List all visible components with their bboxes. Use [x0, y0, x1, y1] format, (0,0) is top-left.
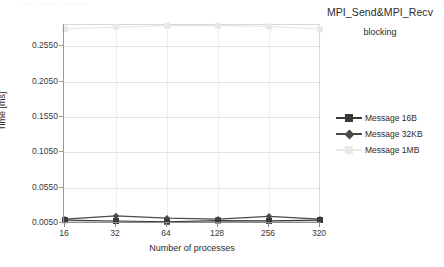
- x-axis-tick: [115, 223, 116, 227]
- legend-item[interactable]: Message 1MB: [336, 142, 440, 158]
- y-axis-ticklabel: 0.1050: [14, 146, 58, 156]
- y-axis-tick: [59, 45, 63, 46]
- legend-label: Message 16B: [362, 113, 417, 123]
- x-axis-ticklabel: 64: [161, 228, 170, 238]
- chart-screenshot: —— ——— ———— MPI_Send&MPI_Recv blocking 0…: [0, 0, 444, 267]
- y-axis-ticklabels: 0.00500.05500.10500.15500.20500.2550: [10, 0, 58, 267]
- x-axis-ticklabel: 320: [312, 228, 326, 238]
- series-line: [65, 216, 320, 219]
- x-axis-ticklabel: 16: [59, 228, 68, 238]
- plot-area: [63, 24, 320, 222]
- chart-title-block: MPI_Send&MPI_Recv blocking: [318, 6, 442, 37]
- legend-item[interactable]: Message 16B: [336, 110, 440, 126]
- data-point-marker: [215, 23, 221, 29]
- legend-marker-icon: [345, 146, 353, 154]
- x-axis-tick: [319, 223, 320, 227]
- y-axis-tick: [59, 116, 63, 117]
- data-point-marker: [113, 24, 119, 30]
- y-axis-tick: [59, 222, 63, 223]
- x-axis-line: [63, 222, 321, 223]
- legend-marker-icon: [345, 114, 353, 122]
- data-point-marker: [164, 23, 170, 29]
- series-line: [65, 26, 320, 30]
- y-axis-ticklabel: 0.1550: [14, 111, 58, 121]
- legend-swatch: [336, 112, 362, 124]
- legend-label: Message 1MB: [362, 145, 419, 155]
- series-layer: [64, 25, 321, 223]
- legend-item[interactable]: Message 32KB: [336, 126, 440, 142]
- legend-marker-icon: [344, 129, 354, 139]
- x-axis-tick: [217, 223, 218, 227]
- legend-swatch: [336, 128, 362, 140]
- legend-swatch: [336, 144, 362, 156]
- y-axis-tick: [59, 151, 63, 152]
- x-axis-tick: [64, 223, 65, 227]
- y-axis-title: Time [ms]: [0, 91, 7, 130]
- data-point-marker: [317, 26, 323, 32]
- data-point-marker: [266, 23, 272, 29]
- x-axis-title: Number of processes: [63, 243, 321, 253]
- y-axis-line: [63, 24, 64, 223]
- y-axis-ticklabel: 0.2550: [14, 40, 58, 50]
- x-axis-ticklabel: 256: [261, 228, 275, 238]
- y-axis-ticklabel: 0.0550: [14, 182, 58, 192]
- chart-subtitle: blocking: [318, 27, 442, 37]
- x-axis-ticklabel: 32: [110, 228, 119, 238]
- legend-label: Message 32KB: [362, 129, 423, 139]
- x-axis-tick: [166, 223, 167, 227]
- y-axis-ticklabel: 0.2050: [14, 76, 58, 86]
- y-axis-ticklabel: 0.0050: [14, 217, 58, 227]
- x-axis-ticklabel: 128: [210, 228, 224, 238]
- chart-title: MPI_Send&MPI_Recv: [318, 6, 442, 18]
- x-axis-tick: [268, 223, 269, 227]
- y-axis-tick: [59, 81, 63, 82]
- y-axis-tick: [59, 187, 63, 188]
- legend: Message 16BMessage 32KBMessage 1MB: [336, 110, 440, 158]
